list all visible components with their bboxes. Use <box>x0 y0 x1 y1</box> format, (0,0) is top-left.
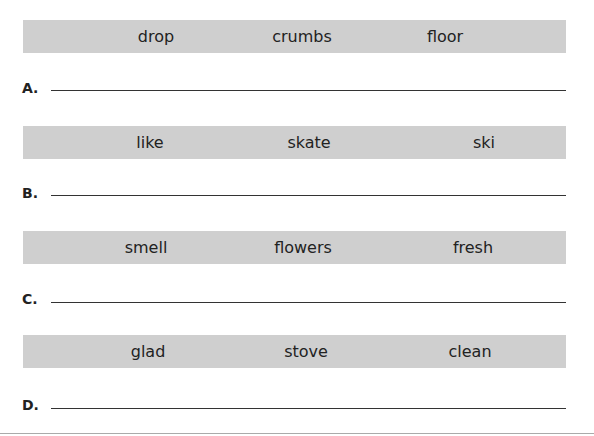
word: smell <box>125 231 168 264</box>
answer-line-d[interactable] <box>51 408 566 409</box>
page-divider <box>0 433 594 434</box>
word: stove <box>284 335 328 368</box>
word: skate <box>287 126 330 159</box>
answer-line-b[interactable] <box>51 195 566 196</box>
word: like <box>136 126 163 159</box>
word: floor <box>427 20 463 53</box>
word-bank-b: like skate ski <box>23 126 566 159</box>
row-label-c: C. <box>22 291 38 307</box>
word: drop <box>138 20 174 53</box>
word: fresh <box>453 231 493 264</box>
word-bank-a: drop crumbs floor <box>23 20 566 53</box>
word-bank-d: glad stove clean <box>23 335 566 368</box>
row-label-b: B. <box>22 185 38 201</box>
word-bank-c: smell flowers fresh <box>23 231 566 264</box>
word: crumbs <box>272 20 332 53</box>
word: ski <box>473 126 495 159</box>
row-label-a: A. <box>22 80 38 96</box>
answer-line-c[interactable] <box>51 302 566 303</box>
word: flowers <box>274 231 332 264</box>
word: glad <box>131 335 166 368</box>
word: clean <box>448 335 491 368</box>
answer-line-a[interactable] <box>51 90 566 91</box>
row-label-d: D. <box>22 397 39 413</box>
